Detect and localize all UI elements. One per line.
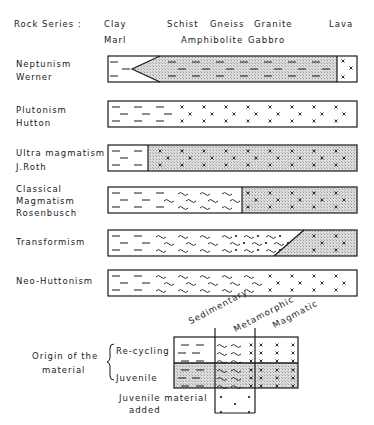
juvenile-dot-mark bbox=[220, 411, 222, 413]
granite-cross-mark bbox=[225, 120, 228, 123]
schist-wave-mark bbox=[222, 250, 232, 253]
granite-cross-mark bbox=[335, 106, 338, 109]
granite-cross-mark bbox=[276, 352, 279, 355]
granite-cross-mark bbox=[260, 344, 263, 347]
granite-cross-mark bbox=[313, 289, 316, 292]
juvenile-dot-mark bbox=[257, 249, 259, 251]
schist-wave-mark bbox=[186, 200, 196, 203]
juvenile-dot-mark bbox=[243, 242, 245, 244]
granite-cross-mark bbox=[255, 113, 258, 116]
schist-wave-mark bbox=[274, 243, 284, 246]
granite-cross-mark bbox=[313, 275, 316, 278]
juvenile-dot-mark bbox=[279, 235, 281, 237]
schist-wave-mark bbox=[266, 250, 276, 253]
granite-cross-mark bbox=[277, 282, 280, 285]
schist-wave-mark bbox=[178, 276, 188, 279]
bar-ultra-magmatism bbox=[108, 145, 357, 171]
schist-wave-mark bbox=[217, 353, 227, 356]
schist-wave-mark bbox=[230, 200, 240, 203]
curly-brace bbox=[107, 344, 114, 380]
schist-wave-mark bbox=[266, 236, 276, 239]
granite-cross-mark bbox=[233, 113, 236, 116]
granite-cross-mark bbox=[260, 360, 263, 363]
schist-wave-mark bbox=[164, 200, 174, 203]
juvenile-dot-mark bbox=[265, 242, 267, 244]
shaded-sediment-wedge bbox=[132, 56, 337, 82]
granite-cross-mark bbox=[250, 352, 253, 355]
schist-wave-mark bbox=[208, 200, 218, 203]
juvenile-dot-mark bbox=[257, 235, 259, 237]
schist-wave-mark bbox=[222, 276, 232, 279]
schist-wave-mark bbox=[156, 290, 166, 293]
granite-cross-mark bbox=[321, 113, 324, 116]
schist-wave-mark bbox=[231, 345, 241, 348]
schist-wave-mark bbox=[252, 283, 262, 286]
schist-wave-mark bbox=[200, 236, 210, 239]
granite-cross-mark bbox=[343, 113, 346, 116]
granite-cross-mark bbox=[269, 120, 272, 123]
granite-cross-mark bbox=[225, 106, 228, 109]
schist-wave-mark bbox=[178, 250, 188, 253]
juvenile-dot-mark bbox=[235, 235, 237, 237]
granite-cross-mark bbox=[269, 289, 272, 292]
juvenile-shaded-row bbox=[174, 363, 298, 388]
schist-wave-mark bbox=[156, 276, 166, 279]
granite-cross-mark bbox=[343, 282, 346, 285]
granite-cross-mark bbox=[203, 106, 206, 109]
schist-wave-mark bbox=[186, 283, 196, 286]
schist-wave-mark bbox=[200, 290, 210, 293]
schist-wave-mark bbox=[200, 276, 210, 279]
granite-cross-mark bbox=[292, 344, 295, 347]
bar-plutonism bbox=[108, 101, 357, 127]
granite-cross-mark bbox=[350, 67, 353, 70]
schist-wave-mark bbox=[244, 276, 254, 279]
granite-cross-mark bbox=[342, 76, 345, 79]
granite-cross-mark bbox=[276, 344, 279, 347]
granite-cross-mark bbox=[292, 352, 295, 355]
granite-cross-mark bbox=[321, 282, 324, 285]
granite-cross-mark bbox=[291, 289, 294, 292]
granite-cross-mark bbox=[277, 113, 280, 116]
granite-cross-mark bbox=[291, 106, 294, 109]
schist-wave-mark bbox=[156, 236, 166, 239]
granite-cross-mark bbox=[291, 120, 294, 123]
granite-cross-mark bbox=[269, 106, 272, 109]
granite-cross-mark bbox=[313, 120, 316, 123]
juvenile-dot-mark bbox=[248, 396, 250, 398]
granite-cross-mark bbox=[335, 289, 338, 292]
granite-cross-mark bbox=[181, 106, 184, 109]
granite-cross-mark bbox=[335, 275, 338, 278]
schist-wave-mark bbox=[252, 243, 262, 246]
juvenile-dot-mark bbox=[220, 396, 222, 398]
juvenile-dot-mark bbox=[279, 249, 281, 251]
granite-cross-mark bbox=[181, 120, 184, 123]
bar-neo-huttonism bbox=[108, 270, 357, 296]
granite-cross-mark bbox=[313, 106, 316, 109]
granite-cross-mark bbox=[342, 60, 345, 63]
granite-cross-mark bbox=[247, 120, 250, 123]
schist-wave-mark bbox=[156, 250, 166, 253]
granite-cross-mark bbox=[292, 360, 295, 363]
granite-cross-mark bbox=[260, 352, 263, 355]
schist-wave-mark bbox=[186, 243, 196, 246]
granite-cross-mark bbox=[269, 275, 272, 278]
schist-wave-mark bbox=[231, 353, 241, 356]
granite-cross-mark bbox=[211, 113, 214, 116]
bar-classical-magmatism bbox=[108, 187, 357, 213]
bar-transformism bbox=[108, 230, 357, 256]
schist-wave-mark bbox=[200, 250, 210, 253]
granite-cross-mark bbox=[299, 282, 302, 285]
schist-wave-mark bbox=[222, 236, 232, 239]
granite-cross-mark bbox=[247, 106, 250, 109]
schist-wave-mark bbox=[230, 243, 240, 246]
schist-wave-mark bbox=[222, 193, 232, 196]
schist-wave-mark bbox=[200, 207, 210, 210]
schist-wave-mark bbox=[222, 207, 232, 210]
granite-cross-mark bbox=[299, 113, 302, 116]
granite-cross-mark bbox=[250, 344, 253, 347]
rock-theory-diagram bbox=[0, 0, 374, 425]
granite-cross-mark bbox=[250, 360, 253, 363]
juvenile-dot-mark bbox=[287, 242, 289, 244]
schist-wave-mark bbox=[244, 236, 254, 239]
granite-cross-mark bbox=[203, 120, 206, 123]
